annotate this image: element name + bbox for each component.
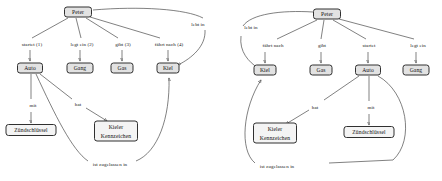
node-label: Gang xyxy=(74,65,87,72)
edge-arrow-kiel-zugelassen xyxy=(245,80,261,163)
node-zuendschluessel[interactable]: Zündschlüssel xyxy=(344,126,395,138)
node-gang[interactable]: Gang xyxy=(67,63,94,74)
node-label: Gas xyxy=(118,65,127,72)
edge-peter-auto xyxy=(333,20,366,39)
edge-arrow-kiel-lebtin xyxy=(178,30,205,65)
edge-peter-auto xyxy=(32,18,68,38)
edge-label-ist-zugelassen-in: ist zugelassen in xyxy=(87,162,133,169)
node-kieler-kennzeichen[interactable]: Kieler Kennzeichen xyxy=(253,123,297,144)
edge-label-startet: startet (1) xyxy=(22,42,42,47)
edge-label-mit: mit xyxy=(368,105,375,110)
edge-arrow-kiel-lebtin xyxy=(241,36,258,68)
node-label: Kieler Kennzeichen xyxy=(256,125,294,141)
node-auto[interactable]: Auto xyxy=(355,65,381,76)
edge-auto-kennz xyxy=(324,76,359,100)
edge-layer-left xyxy=(0,0,221,181)
edge-label-gibt: gibt (3) xyxy=(115,42,131,47)
edge-peter-gas xyxy=(321,20,324,39)
edge-auto-kiel-zugelassen-a xyxy=(36,74,88,161)
edge-peter-gang xyxy=(76,18,81,38)
edge-arrow-kennz xyxy=(86,108,107,121)
node-label: Peter xyxy=(321,11,333,18)
node-gang[interactable]: Gang xyxy=(403,65,430,76)
node-gas[interactable]: Gas xyxy=(111,63,134,74)
figure-root: Peter Auto Gang Gas Kiel Zündschlüssel K… xyxy=(0,0,442,181)
node-zuendschluessel[interactable]: Zündschlüssel xyxy=(6,124,57,136)
edge-peter-gas xyxy=(86,18,118,38)
edge-label-mit: mit xyxy=(30,103,37,108)
edge-peter-kiel-faehrt xyxy=(277,20,317,39)
node-label: Gas xyxy=(317,67,326,74)
edge-label-ist-zugelassen-in: ist zugelassen in xyxy=(254,164,300,171)
edge-peter-gang xyxy=(339,19,414,39)
edge-label-hat: hat xyxy=(312,105,318,110)
edge-label-hat: hat xyxy=(75,102,81,107)
edge-label-gibt: gibt xyxy=(318,43,326,48)
node-peter[interactable]: Peter xyxy=(313,9,341,20)
node-label: Zündschlüssel xyxy=(14,127,47,134)
node-kieler-kennzeichen[interactable]: Kieler Kennzeichen xyxy=(94,121,138,142)
node-gas[interactable]: Gas xyxy=(310,65,333,76)
edge-peter-kiel-lebtin-top xyxy=(93,8,203,18)
node-label: Peter xyxy=(72,9,84,16)
node-auto[interactable]: Auto xyxy=(17,63,43,74)
node-label: Auto xyxy=(24,65,36,72)
edge-arrow-kiel-zugelassen xyxy=(136,78,169,161)
edge-label-lebt-in: lebt in xyxy=(244,25,257,30)
edge-label-legt-ein: legt ein xyxy=(410,43,426,48)
edge-label-faehrt-nach: fährt nach (4) xyxy=(155,42,184,47)
node-kiel[interactable]: Kiel xyxy=(254,65,277,76)
edge-auto-kennz xyxy=(40,74,72,99)
edge-label-legt-ein: legt ein (2) xyxy=(70,42,93,47)
node-label: Gang xyxy=(410,67,423,74)
edge-label-lebt-in: lebt in xyxy=(191,22,204,27)
node-peter[interactable]: Peter xyxy=(64,7,92,18)
node-label: Kiel xyxy=(163,65,173,72)
node-label: Kieler Kennzeichen xyxy=(97,123,135,139)
edge-label-faehrt-nach: fährt nach xyxy=(262,43,283,48)
node-label: Kiel xyxy=(260,67,270,74)
node-label: Zündschlüssel xyxy=(352,129,385,136)
edge-label-startet: startet xyxy=(363,43,376,48)
node-label: Auto xyxy=(362,67,374,74)
node-kiel[interactable]: Kiel xyxy=(157,63,180,74)
semantic-network-left: Peter Auto Gang Gas Kiel Zündschlüssel K… xyxy=(0,0,221,181)
edge-peter-kiel-faehrt xyxy=(90,17,160,38)
semantic-network-right: Peter Kiel Gas Auto Gang Kieler Kennzeic… xyxy=(221,0,442,181)
